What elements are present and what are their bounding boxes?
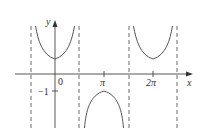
x-axis-arrow-icon [186, 72, 193, 77]
curve-branch-3 [134, 26, 173, 59]
sec-graph: y x 0 π 2π −1 [0, 0, 203, 128]
x-axis-label: x [186, 77, 192, 88]
y-axis-arrow-icon [53, 20, 58, 27]
two-pi-label: 2π [146, 77, 157, 88]
pi-label: π [100, 77, 106, 88]
neg-one-label: −1 [38, 86, 49, 97]
curve-branch-2 [85, 91, 124, 128]
origin-label: 0 [58, 76, 63, 87]
y-axis-label: y [45, 16, 51, 27]
